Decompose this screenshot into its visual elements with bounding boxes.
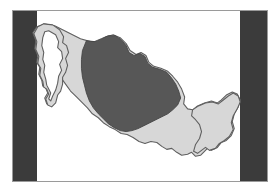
mexico-map-graphic xyxy=(13,11,267,181)
figure-frame xyxy=(12,10,268,182)
figure-root xyxy=(0,0,280,193)
